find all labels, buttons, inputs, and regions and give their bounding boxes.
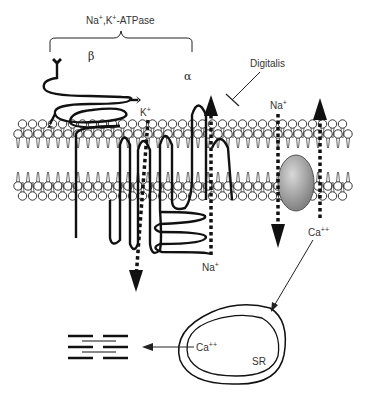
inhibition-icon bbox=[226, 72, 260, 106]
diagram-canvas: Na+,K+-ATPase β α Digitalis K+ Na+ bbox=[0, 0, 365, 399]
digitalis-label: Digitalis bbox=[250, 58, 285, 69]
ca-exchanger-arrow bbox=[313, 98, 327, 218]
svg-text:Na+,K+-ATPase: Na+,K+-ATPase bbox=[86, 14, 155, 26]
myofilaments-icon bbox=[68, 336, 128, 358]
title-label: Na+,K+-ATPase bbox=[86, 14, 155, 26]
ca-release-arrow bbox=[142, 343, 194, 351]
glycosylation-icon bbox=[47, 58, 141, 128]
ca-to-sr-arrow bbox=[271, 240, 313, 312]
subunit-brace bbox=[50, 31, 192, 52]
beta-subunit bbox=[44, 62, 138, 127]
k-ion-label: K+ bbox=[140, 106, 151, 118]
na-ca-exchanger bbox=[278, 155, 314, 211]
na-exchanger-label: Na+ bbox=[270, 99, 287, 111]
beta-label: β bbox=[88, 50, 94, 63]
ca-sr-label: Ca++ bbox=[196, 341, 217, 353]
ca-exchanger-label: Ca++ bbox=[308, 226, 329, 238]
sr-label: SR bbox=[252, 356, 266, 367]
alpha-label: α bbox=[184, 70, 192, 83]
na-pump-label: Na+ bbox=[202, 261, 219, 273]
